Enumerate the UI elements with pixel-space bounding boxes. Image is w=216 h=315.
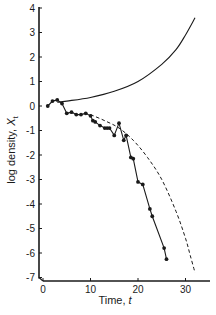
series-observed [46,98,169,261]
x-tick-label: 30 [180,284,192,295]
observed-line [48,100,167,259]
data-point [131,157,135,161]
upper-curve-line [57,18,195,103]
y-tick-label: -4 [26,199,35,210]
y-tick-label: -3 [26,174,35,185]
y-tick-label: -5 [26,223,35,234]
data-point [122,138,126,142]
y-axis-title: log density, Xt [5,116,20,184]
y-tick-label: -7 [26,272,35,283]
lower-curve-line [91,115,196,273]
y-tick-label: -2 [26,150,35,161]
y-tick-label: 2 [29,52,35,63]
data-point [124,134,128,138]
data-point [141,183,145,187]
x-axis: 0102030 [39,278,210,296]
data-point [65,111,69,115]
y-tick-label: -1 [26,125,35,136]
y-tick-label: 1 [29,76,35,87]
series-lower-curve [91,115,196,273]
axis-corner [39,278,43,282]
data-point [74,113,78,117]
y-tick-label: -6 [26,248,35,259]
x-tick-label: 20 [132,284,144,295]
data-point [46,104,50,108]
data-point [117,121,121,125]
data-point [148,207,152,211]
series-upper-curve [57,18,195,103]
data-point [89,114,93,118]
data-point [98,124,102,128]
x-tick-label: 10 [85,284,97,295]
x-axis-title: Time, t [98,294,132,306]
data-point [55,98,59,102]
y-axis: 43210-1-2-3-4-5-6-7 [26,3,42,284]
data-point [93,120,97,124]
data-point [112,134,116,138]
data-point [162,246,166,250]
data-point [84,111,88,115]
data-point [70,110,74,114]
series-layer [46,18,195,273]
data-point [79,113,83,117]
y-tick-label: 0 [29,101,35,112]
y-tick-label: 3 [29,27,35,38]
data-point [165,257,169,261]
data-point [108,126,112,130]
chart: 43210-1-2-3-4-5-6-7 0102030 Time, t log … [0,0,216,315]
data-point [150,214,154,218]
x-tick-label: 0 [40,284,46,295]
data-point [51,99,55,103]
data-point [136,180,140,184]
y-tick-label: 4 [29,3,35,14]
